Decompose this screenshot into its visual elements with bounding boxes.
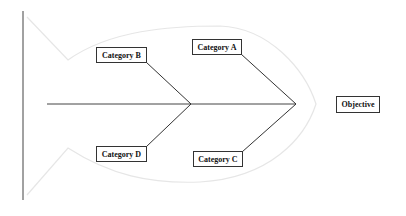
branch-b — [146, 62, 191, 104]
category-c-label: Category C — [198, 155, 237, 164]
category-a-label: Category A — [198, 43, 237, 52]
category-d-label: Category D — [102, 150, 141, 159]
category-c-box: Category C — [193, 151, 243, 167]
branch-a — [241, 54, 296, 104]
category-b-box: Category B — [96, 47, 147, 63]
category-d-box: Category D — [96, 146, 147, 162]
category-b-label: Category B — [102, 51, 141, 60]
fish-outline — [27, 17, 316, 195]
objective-label: Objective — [342, 100, 375, 109]
branch-c — [242, 104, 296, 152]
category-a-box: Category A — [192, 39, 242, 55]
branch-d — [146, 104, 191, 147]
objective-box: Objective — [336, 96, 380, 113]
